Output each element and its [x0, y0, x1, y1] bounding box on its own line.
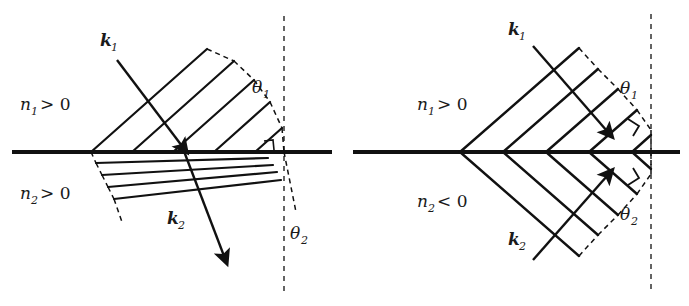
- label-theta2-right: θ: [620, 204, 630, 224]
- label-k2-sub-right: 2: [518, 240, 526, 253]
- label-theta2-sub-left: 2: [300, 234, 308, 247]
- incident-beam-edge-dashed-right: [579, 48, 651, 152]
- label-k2-sub-left: 2: [177, 219, 185, 232]
- label-theta2-sub-right: 2: [630, 215, 638, 228]
- incident-wavevector-ray-left: [117, 60, 182, 146]
- panel-positive-index: k 1 k 2 n 1 > 0 n 2 > 0 θ 1 θ 2: [0, 0, 345, 306]
- label-k2-left: k: [167, 208, 179, 228]
- label-k2-right: k: [508, 229, 520, 249]
- label-k1-sub-right: 1: [519, 30, 526, 43]
- label-n1-sub-right: 1: [428, 105, 435, 118]
- label-n2-left: n: [20, 183, 31, 203]
- incident-wavefronts-right: [460, 48, 651, 152]
- label-theta1-sub-right: 1: [631, 89, 638, 102]
- label-n1-rel-right: > 0: [437, 94, 467, 114]
- theta2-edge-dashed-left: [284, 152, 296, 212]
- label-theta1-right: θ: [620, 78, 630, 98]
- label-n2-right: n: [417, 191, 428, 211]
- label-k1-sub-left: 1: [111, 41, 118, 54]
- label-k1-left: k: [100, 30, 112, 50]
- label-n2-sub-left: 2: [30, 194, 38, 207]
- figure-root: k 1 k 2 n 1 > 0 n 2 > 0 θ 1 θ 2: [0, 0, 689, 306]
- label-theta2-left: θ: [290, 223, 300, 243]
- label-theta1-sub-left: 1: [263, 88, 270, 101]
- label-n2-sub-right: 2: [427, 202, 435, 215]
- transmitted-beam-edge-dashed-right: [579, 152, 651, 256]
- theta1-angle-tick-left: [264, 140, 274, 150]
- label-n2-rel-left: > 0: [40, 183, 70, 203]
- transmitted-wavevector-ray-left: [182, 146, 224, 256]
- panel-negative-index: k 1 k 2 n 1 > 0 n 2 < 0 θ 1 θ 2: [345, 0, 689, 306]
- theta1-angle-tick-right: [628, 119, 639, 136]
- label-k1-right: k: [508, 19, 520, 39]
- theta2-angle-tick-right: [628, 168, 639, 185]
- label-n1-right: n: [417, 94, 428, 114]
- label-theta1-left: θ: [252, 77, 262, 97]
- label-n1-left: n: [20, 94, 31, 114]
- label-n2-rel-right: < 0: [437, 191, 467, 211]
- label-n1-sub-left: 1: [31, 105, 38, 118]
- label-n1-rel-left: > 0: [40, 94, 70, 114]
- incident-wavevector-ray-right: [533, 46, 607, 131]
